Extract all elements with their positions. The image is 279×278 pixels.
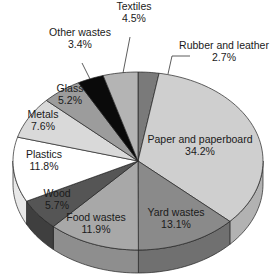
- slice-label-other-wastes: Other wastes3.4%: [49, 26, 111, 50]
- slice-label-rubber-and-leather: Rubber and leather2.7%: [179, 39, 269, 63]
- slice-label-percent: 11.8%: [26, 160, 62, 172]
- slice-label-name: Paper and paperboard: [147, 133, 252, 145]
- slice-label-name: Plastics: [26, 148, 62, 160]
- slice-label-percent: 5.7%: [43, 199, 70, 211]
- slice-label-percent: 5.2%: [57, 94, 84, 106]
- slice-label-percent: 2.7%: [179, 51, 269, 63]
- slice-label-food-wastes: Food wastes11.9%: [66, 211, 126, 235]
- slice-label-metals: Metals7.6%: [28, 108, 59, 132]
- slice-label-paper-and-paperboard: Paper and paperboard34.2%: [147, 133, 252, 157]
- slice-label-percent: 34.2%: [147, 145, 252, 157]
- slice-label-name: Textiles: [116, 0, 151, 12]
- slice-label-wood: Wood5.7%: [43, 187, 70, 211]
- slice-label-name: Metals: [28, 108, 59, 120]
- slice-label-name: Glass: [57, 82, 84, 94]
- slice-label-name: Wood: [43, 187, 70, 199]
- slice-label-name: Yard wastes: [148, 206, 205, 218]
- slice-label-textiles: Textiles4.5%: [116, 0, 151, 24]
- leader-line-other-wastes: [82, 63, 90, 79]
- slice-label-percent: 11.9%: [66, 223, 126, 235]
- slice-label-percent: 7.6%: [28, 120, 59, 132]
- slice-label-glass: Glass5.2%: [57, 82, 84, 106]
- slice-label-percent: 4.5%: [116, 12, 151, 24]
- slice-label-percent: 3.4%: [49, 38, 111, 50]
- slice-label-percent: 13.1%: [148, 218, 205, 230]
- slice-label-name: Other wastes: [49, 26, 111, 38]
- slice-label-yard-wastes: Yard wastes13.1%: [148, 206, 205, 230]
- leader-line-textiles: [123, 37, 130, 73]
- slice-label-plastics: Plastics11.8%: [26, 148, 62, 172]
- slice-label-name: Rubber and leather: [179, 39, 269, 51]
- slice-label-name: Food wastes: [66, 211, 126, 223]
